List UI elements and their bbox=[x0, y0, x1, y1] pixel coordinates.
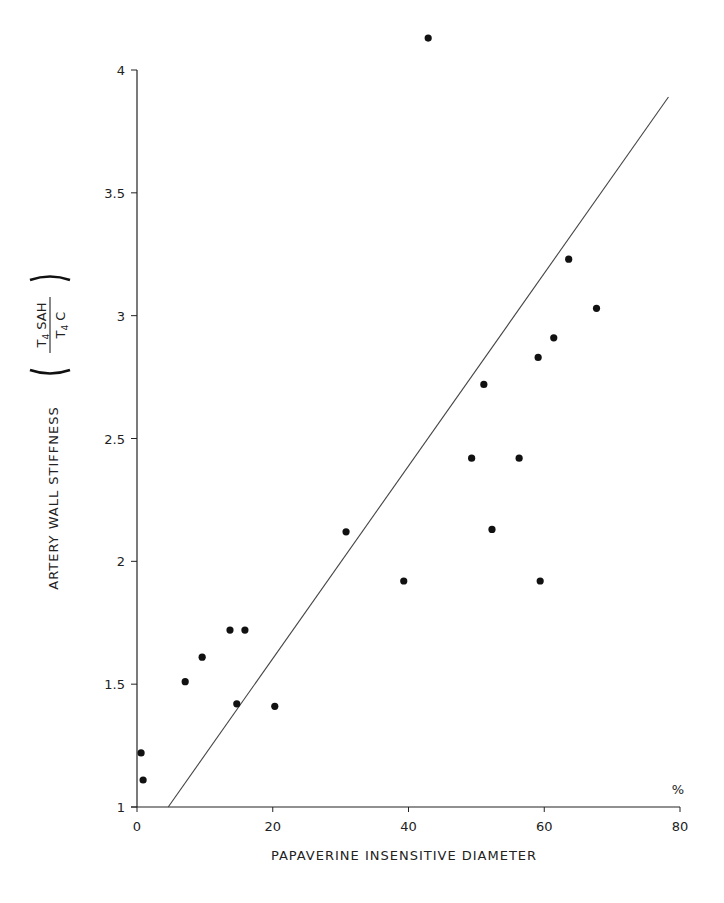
data-points bbox=[137, 34, 600, 783]
fraction-denominator: T4C bbox=[53, 312, 70, 340]
y-tick-label: 3 bbox=[117, 309, 125, 324]
x-tick-label: 60 bbox=[536, 819, 553, 834]
data-point bbox=[565, 256, 572, 263]
data-point bbox=[468, 455, 475, 462]
data-point bbox=[550, 334, 557, 341]
data-point bbox=[137, 749, 144, 756]
y-tick-label: 4 bbox=[117, 63, 125, 78]
y-tick-label: 2.5 bbox=[104, 432, 125, 447]
y-tick-label: 2 bbox=[117, 554, 125, 569]
y-axis-title: ARTERY WALL STIFFNESS bbox=[46, 406, 61, 590]
y-tick-label: 1 bbox=[117, 800, 125, 815]
y-axis-ticks: 11.522.533.54 bbox=[104, 63, 137, 815]
data-point bbox=[271, 703, 278, 710]
data-point bbox=[488, 526, 495, 533]
regression-line bbox=[168, 97, 668, 807]
x-tick-label: 40 bbox=[400, 819, 417, 834]
x-tick-label: 80 bbox=[672, 819, 689, 834]
left-paren bbox=[30, 370, 70, 374]
data-point bbox=[226, 627, 233, 634]
fraction-numerator: T4SAH bbox=[34, 303, 51, 349]
y-tick-label: 1.5 bbox=[104, 677, 125, 692]
data-point bbox=[400, 577, 407, 584]
x-tick-label: 0 bbox=[133, 819, 141, 834]
data-point bbox=[516, 455, 523, 462]
data-point bbox=[182, 678, 189, 685]
x-tick-label: 20 bbox=[264, 819, 281, 834]
data-point bbox=[480, 381, 487, 388]
scatter-chart: 020406080 11.522.533.54 % PAPAVERINE INS… bbox=[0, 0, 724, 903]
data-point bbox=[535, 354, 542, 361]
data-point bbox=[342, 528, 349, 535]
x-axis-ticks: 020406080 bbox=[133, 807, 688, 834]
right-paren bbox=[30, 277, 70, 281]
data-point bbox=[425, 34, 432, 41]
axes bbox=[131, 70, 680, 807]
data-point bbox=[199, 654, 206, 661]
y-axis-fraction-label: T4SAH T4C bbox=[30, 277, 70, 374]
data-point bbox=[537, 577, 544, 584]
x-unit-label: % bbox=[672, 782, 684, 797]
data-point bbox=[233, 700, 240, 707]
data-point bbox=[593, 305, 600, 312]
x-axis-title: PAPAVERINE INSENSITIVE DIAMETER bbox=[271, 848, 537, 863]
data-point bbox=[241, 627, 248, 634]
data-point bbox=[140, 776, 147, 783]
y-tick-label: 3.5 bbox=[104, 186, 125, 201]
